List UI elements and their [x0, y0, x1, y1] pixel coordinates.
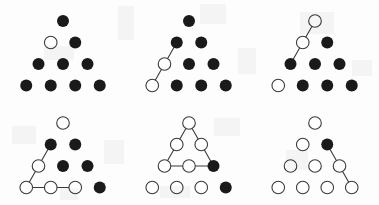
panel-6 [252, 102, 378, 204]
panel-2-dot-r4c2-filled [171, 80, 183, 92]
panel-5-dot-r3c1-open [158, 160, 171, 173]
panel-5-dot-r1c1-open [183, 117, 196, 130]
panel-6-dot-r2c2-filled [321, 139, 333, 151]
panel-5-dot-r2c1-open [170, 138, 183, 151]
panel-2-dot-r1c1-filled [183, 15, 195, 27]
panel-3-canvas [252, 0, 378, 102]
panel-4-canvas [0, 102, 126, 204]
panel-4-dot-r4c3-open [69, 181, 82, 194]
panel-2-dot-r4c4-filled [220, 80, 232, 92]
panel-3-dot-r2c1-open [296, 36, 309, 49]
panel-3-dot-r3c3-filled [334, 58, 346, 70]
panel-4 [0, 102, 126, 204]
panel-4-dot-r3c1-open [32, 160, 45, 173]
panel-6-dot-r3c1-open [284, 160, 297, 173]
panel-3-dot-r4c4-filled [346, 80, 358, 92]
panel-5-dot-r2c2-open [195, 138, 208, 151]
panel-2-dot-r2c2-filled [195, 37, 207, 49]
panel-5-dot-r4c4-filled [220, 182, 232, 194]
panel-1-dot-r2c2-filled [69, 37, 81, 49]
panel-1-dot-r3c3-filled [82, 58, 94, 70]
panel-6-canvas [252, 102, 378, 204]
panel-3-dot-r4c3-filled [321, 80, 333, 92]
panel-1-dot-r4c4-filled [94, 80, 106, 92]
panel-6-dot-r4c2-open [296, 181, 309, 194]
panel-4-dot-r1c1-open [57, 117, 70, 130]
panel-6-dot-r1c1-open [309, 117, 322, 130]
panel-3-dot-r3c2-filled [309, 58, 321, 70]
panel-5-dot-r4c1-open [146, 181, 159, 194]
panel-3-dot-r4c2-filled [297, 80, 309, 92]
panel-6-dot-r3c3-open [333, 160, 346, 173]
panel-5-dot-r4c3-open [195, 181, 208, 194]
panel-1-dot-r3c2-filled [57, 58, 69, 70]
panel-6-dot-r4c3-open [321, 181, 334, 194]
panel-2-dot-r4c3-filled [195, 80, 207, 92]
panel-1-dot-r3c1-filled [33, 58, 45, 70]
panel-4-dot-r4c4-filled [94, 182, 106, 194]
panel-1-dot-r1c1-filled [57, 15, 69, 27]
panel-5 [126, 102, 252, 204]
panel-3-dot-r3c1-filled [285, 58, 297, 70]
panel-5-canvas [126, 102, 252, 204]
panel-5-dot-r3c3-filled [208, 160, 220, 172]
dot-triangle-figure [0, 0, 379, 205]
panel-4-dot-r2c1-filled [45, 139, 57, 151]
panel-4-dot-r2c2-filled [69, 139, 81, 151]
panel-1-dot-r4c1-filled [20, 80, 32, 92]
panel-3 [252, 0, 378, 102]
panel-1-dot-r4c2-filled [45, 80, 57, 92]
panel-4-dot-r3c3-filled [82, 160, 94, 172]
panel-3-dot-r2c2-filled [321, 37, 333, 49]
panel-2-dot-r2c1-filled [171, 37, 183, 49]
panel-1-dot-r2c1-open [44, 36, 57, 49]
panel-3-dot-r4c1-open [272, 79, 285, 92]
panel-2-dot-r3c1-open [158, 58, 171, 71]
panel-2 [126, 0, 252, 102]
panel-1-dot-r4c3-filled [69, 80, 81, 92]
panel-1-canvas [0, 0, 126, 102]
panel-6-dot-r4c4-open [345, 181, 358, 194]
panel-2-canvas [126, 0, 252, 102]
panel-4-dot-r4c1-open [20, 181, 33, 194]
panel-6-dot-r4c1-open [272, 181, 285, 194]
panel-5-dot-r3c2-open [183, 160, 196, 173]
panel-2-dot-r4c1-open [146, 79, 159, 92]
panel-6-dot-r3c2-open [309, 160, 322, 173]
panel-4-dot-r3c2-filled [57, 160, 69, 172]
panel-3-dot-r1c1-open [309, 15, 322, 28]
panel-5-dot-r4c2-open [170, 181, 183, 194]
panel-2-dot-r3c2-filled [183, 58, 195, 70]
panel-6-dot-r2c1-open [296, 138, 309, 151]
panel-2-dot-r3c3-filled [208, 58, 220, 70]
panel-1 [0, 0, 126, 102]
panel-4-dot-r4c2-open [44, 181, 57, 194]
